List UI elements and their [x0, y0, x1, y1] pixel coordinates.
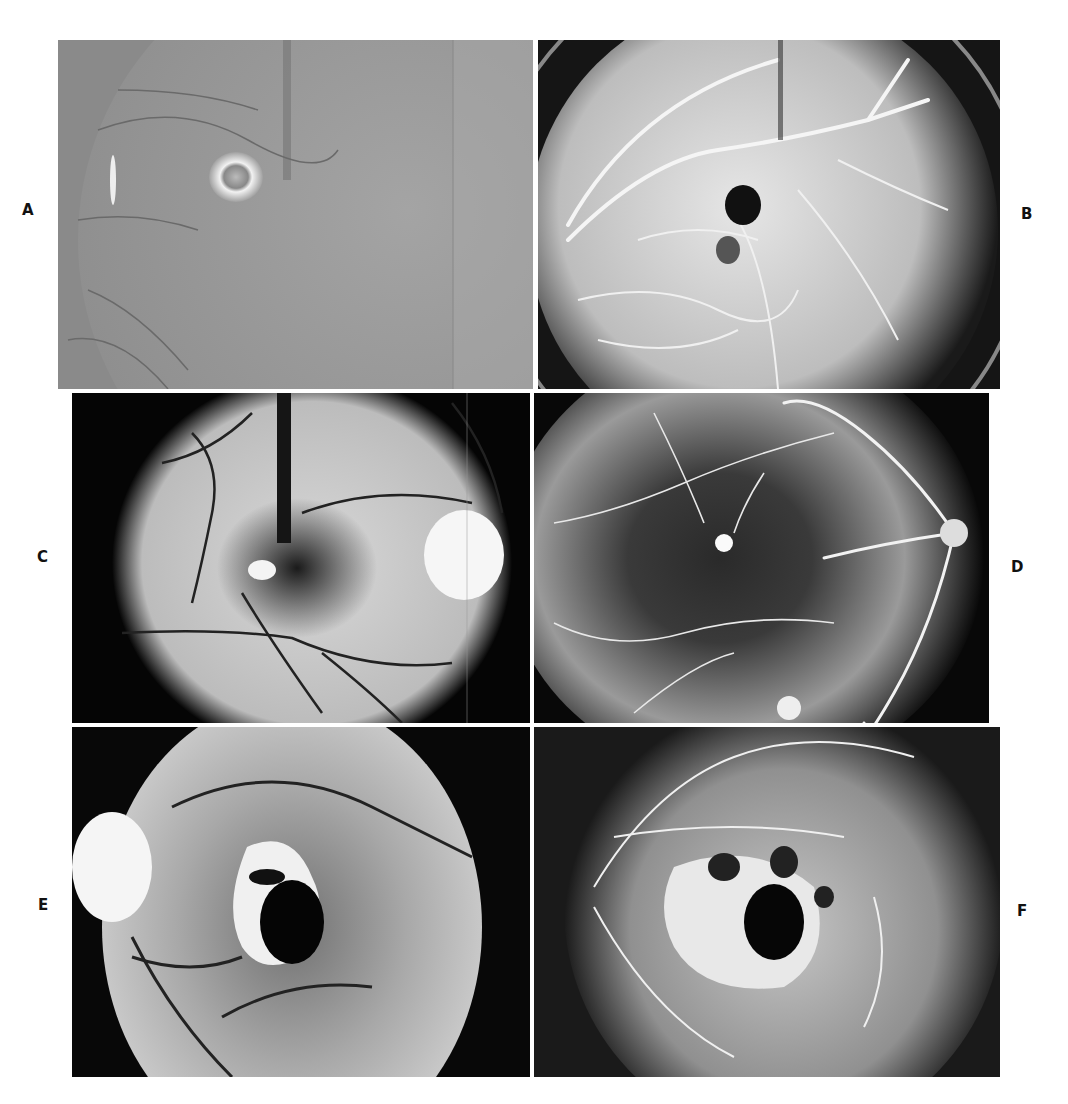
panel-label-e: E	[38, 898, 48, 913]
panel-a-image	[58, 40, 533, 389]
angiogram-image-d	[534, 393, 989, 723]
panel-label-b: B	[1021, 207, 1032, 222]
angiogram-image-b	[538, 40, 1000, 389]
panel-e-image	[72, 727, 530, 1077]
angiogram-image-f	[534, 727, 1000, 1077]
panel-label-f: F	[1017, 904, 1027, 919]
fundus-image-e	[72, 727, 530, 1077]
panel-label-d: D	[1011, 560, 1023, 575]
panel-label-c: C	[37, 550, 48, 565]
panel-f-image	[534, 727, 1000, 1077]
panel-label-a: A	[22, 203, 34, 218]
fundus-image-c	[72, 393, 530, 723]
panel-b-image	[538, 40, 1000, 389]
panel-c-image	[72, 393, 530, 723]
fundus-image-a	[58, 40, 533, 389]
panel-d-image	[534, 393, 989, 723]
